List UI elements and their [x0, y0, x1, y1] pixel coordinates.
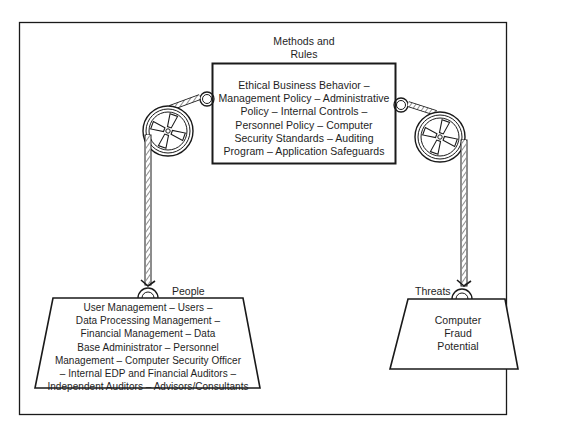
methods-line: Personnel Policy – Computer [214, 119, 394, 132]
threats-text: Computer Fraud Potential [410, 314, 506, 354]
people-line: Management – Computer Security Officer [38, 354, 258, 367]
threats-label: Threats [415, 285, 451, 298]
methods-line: Program – Application Safeguards [214, 145, 394, 158]
methods-title: Methods and Rules [254, 35, 354, 61]
right-pulley-icon [415, 112, 465, 162]
methods-line: Ethical Business Behavior – [214, 79, 394, 92]
threats-line: Potential [410, 340, 506, 353]
left-box-ring-icon [200, 92, 214, 106]
people-line: Base Administrator – Personnel [38, 341, 258, 354]
right-rope-vertical [461, 140, 467, 286]
people-label: People [172, 285, 205, 298]
people-line: User Management – Users – [38, 301, 258, 314]
threats-line: Fraud [410, 327, 506, 340]
methods-title-line: Rules [254, 48, 354, 61]
methods-line: Security Standards – Auditing [214, 132, 394, 145]
people-text: User Management – Users – Data Processin… [38, 301, 258, 393]
right-box-ring-icon [394, 98, 408, 112]
methods-title-line: Methods and [254, 35, 354, 48]
left-rope-vertical [145, 135, 151, 285]
threats-line: Computer [410, 314, 506, 327]
people-line: Data Processing Management – [38, 314, 258, 327]
people-line: – Internal EDP and Financial Auditors – [38, 367, 258, 380]
methods-line: Policy – Internal Controls – [214, 105, 394, 118]
methods-text: Ethical Business Behavior – Management P… [214, 79, 394, 158]
diagram-canvas: Methods and Rules Ethical Business Behav… [0, 0, 570, 437]
people-line: Financial Management – Data [38, 327, 258, 340]
people-line: Independent Auditors – Advisors/Consulta… [38, 380, 258, 393]
methods-line: Management Policy – Administrative [214, 92, 394, 105]
right-rope-top [408, 104, 436, 113]
